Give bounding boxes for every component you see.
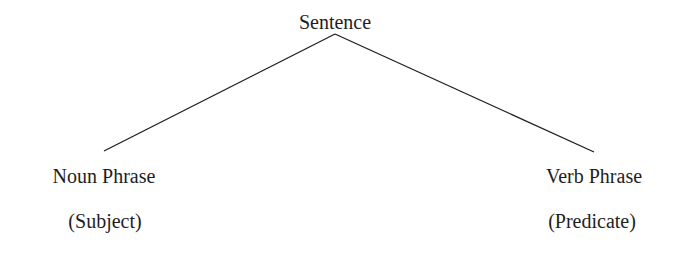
root-node-sentence: Sentence [299,12,371,32]
node-verb-phrase: Verb Phrase [546,166,642,186]
sentence-tree-diagram: Sentence Noun Phrase (Subject) Verb Phra… [0,0,687,255]
node-verb-phrase-role: (Predicate) [548,211,636,231]
node-noun-phrase: Noun Phrase [53,166,156,186]
edge-sentence-to-noun-phrase [104,34,335,151]
edge-sentence-to-verb-phrase [335,34,594,152]
node-noun-phrase-role: (Subject) [68,211,141,231]
